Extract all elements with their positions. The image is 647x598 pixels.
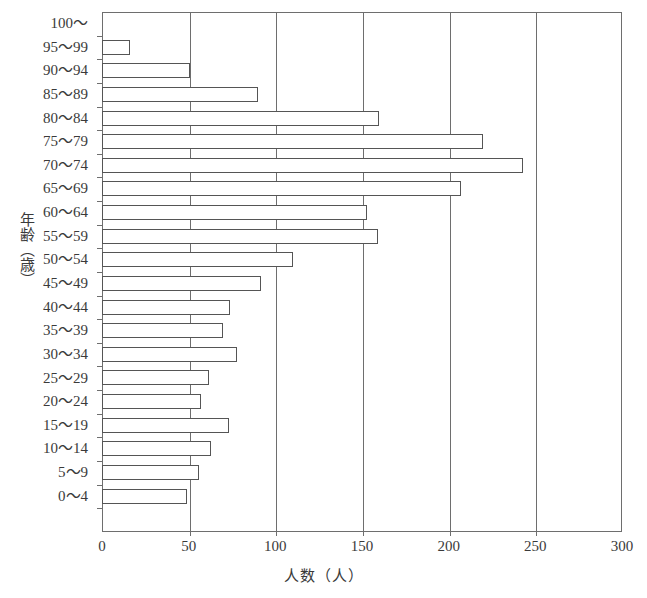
bar-30-34 bbox=[102, 347, 237, 362]
y-tick-label: 30～34 bbox=[43, 343, 88, 367]
bar-15-19 bbox=[102, 418, 229, 433]
bar-40-44 bbox=[102, 300, 230, 315]
y-tick-label: 80～84 bbox=[43, 107, 88, 131]
bar-80-84 bbox=[102, 111, 379, 126]
y-axis-tick-labels: 100～95～9990～9485～8980～8475～7970～7465～696… bbox=[0, 12, 96, 532]
y-tick-label: 35～39 bbox=[43, 319, 88, 343]
bar-row bbox=[102, 36, 622, 60]
y-tick-label: 10～14 bbox=[43, 437, 88, 461]
population-bar-chart: 年齢（歳） 100～95～9990～9485～8980～8475～7970～74… bbox=[0, 0, 647, 598]
bar-row bbox=[102, 414, 622, 438]
bar-row bbox=[102, 343, 622, 367]
y-tick-label: 90～94 bbox=[43, 59, 88, 83]
y-axis-tick bbox=[97, 508, 102, 509]
y-tick-label: 65～69 bbox=[43, 177, 88, 201]
y-tick-label: 55～59 bbox=[43, 225, 88, 249]
y-tick-label: 75～79 bbox=[43, 130, 88, 154]
y-tick-label: 45～49 bbox=[43, 272, 88, 296]
bar-55-59 bbox=[102, 229, 378, 244]
bars-container bbox=[102, 12, 622, 532]
bar-70-74 bbox=[102, 158, 523, 173]
bar-75-79 bbox=[102, 134, 483, 149]
y-tick-label: 25～29 bbox=[43, 367, 88, 391]
x-tick-label: 300 bbox=[611, 538, 634, 555]
bar-row bbox=[102, 59, 622, 83]
bar-85-89 bbox=[102, 87, 258, 102]
bar-row bbox=[102, 107, 622, 131]
y-tick-label: 15～19 bbox=[43, 414, 88, 438]
bar-row bbox=[102, 130, 622, 154]
bar-45-49 bbox=[102, 276, 261, 291]
bar-5-9 bbox=[102, 465, 199, 480]
y-tick-label: 60～64 bbox=[43, 201, 88, 225]
bar-90-94 bbox=[102, 63, 190, 78]
bar-row bbox=[102, 296, 622, 320]
x-tick-label: 150 bbox=[351, 538, 374, 555]
x-tick-label: 100 bbox=[264, 538, 287, 555]
bar-20-24 bbox=[102, 394, 201, 409]
y-tick-label: 85～89 bbox=[43, 83, 88, 107]
y-tick-label: 70～74 bbox=[43, 154, 88, 178]
bar-95-99 bbox=[102, 40, 130, 55]
y-tick-label: 100～ bbox=[51, 12, 89, 36]
y-tick-label: 50～54 bbox=[43, 248, 88, 272]
x-tick-label: 200 bbox=[437, 538, 460, 555]
y-tick-label: 40～44 bbox=[43, 296, 88, 320]
x-axis-tick-labels: 050100150200250300 bbox=[0, 538, 647, 560]
bar-row bbox=[102, 366, 622, 390]
bar-row bbox=[102, 248, 622, 272]
bar-row bbox=[102, 225, 622, 249]
bar-0-4 bbox=[102, 489, 187, 504]
bar-row bbox=[102, 154, 622, 178]
y-tick-label: 20～24 bbox=[43, 390, 88, 414]
bar-65-69 bbox=[102, 181, 461, 196]
bar-60-64 bbox=[102, 205, 367, 220]
bar-50-54 bbox=[102, 252, 293, 267]
y-tick-label: 95～99 bbox=[43, 36, 88, 60]
bar-row bbox=[102, 201, 622, 225]
x-axis-title: 人数（人） bbox=[0, 564, 647, 585]
bar-row bbox=[102, 12, 622, 36]
y-tick-label: 5～9 bbox=[58, 461, 88, 485]
bar-row bbox=[102, 461, 622, 485]
x-tick-label: 250 bbox=[524, 538, 547, 555]
bar-row bbox=[102, 177, 622, 201]
bar-25-29 bbox=[102, 370, 209, 385]
bar-row bbox=[102, 485, 622, 509]
bar-row bbox=[102, 83, 622, 107]
bar-row bbox=[102, 390, 622, 414]
bar-row bbox=[102, 319, 622, 343]
y-tick-label: 0～4 bbox=[58, 485, 88, 509]
x-tick-label: 0 bbox=[98, 538, 106, 555]
bar-row bbox=[102, 272, 622, 296]
bar-10-14 bbox=[102, 441, 211, 456]
bar-row bbox=[102, 437, 622, 461]
x-tick-label: 50 bbox=[181, 538, 196, 555]
bar-35-39 bbox=[102, 323, 223, 338]
